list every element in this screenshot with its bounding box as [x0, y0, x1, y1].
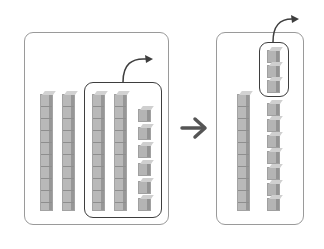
curved-arrow-icon [273, 15, 299, 42]
right-arrow-icon [182, 119, 205, 137]
curved-arrow-icon [123, 55, 153, 82]
arrows-layer [0, 0, 324, 249]
